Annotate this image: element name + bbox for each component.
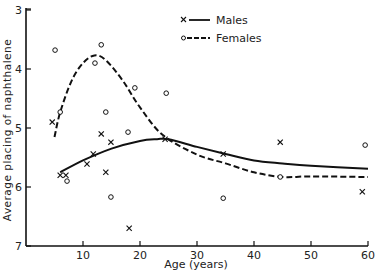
female-data-point — [164, 91, 169, 96]
legend-females: Females — [182, 32, 262, 45]
female-data-point — [126, 130, 131, 135]
females-points — [53, 43, 368, 201]
female-data-point — [109, 195, 114, 200]
male-data-point — [63, 173, 68, 178]
male-data-point — [99, 131, 104, 136]
x-tick-label: 20 — [133, 249, 147, 262]
female-data-point — [363, 143, 368, 148]
x-tick-label: 10 — [76, 249, 90, 262]
female-data-point — [133, 86, 138, 91]
female-data-point — [58, 110, 63, 115]
male-data-point — [127, 226, 132, 231]
male-data-point — [103, 170, 108, 175]
male-data-point — [84, 161, 89, 166]
legend: Males Females — [181, 14, 262, 45]
female-data-point — [93, 61, 98, 66]
legend-males-label: Males — [216, 14, 248, 27]
y-axis-label: Average placing of naphthalene — [1, 39, 13, 221]
y-tick-label: 6 — [15, 181, 22, 194]
female-data-point — [53, 48, 58, 53]
axes — [26, 8, 368, 246]
y-ticks: 34567 — [15, 4, 31, 253]
male-data-point — [360, 189, 365, 194]
males-points — [50, 120, 365, 231]
female-data-point — [99, 43, 104, 48]
x-tick-label: 40 — [247, 249, 261, 262]
female-data-point — [65, 179, 70, 184]
males-trend-curve — [60, 139, 368, 173]
female-data-point — [104, 110, 109, 115]
x-tick-label: 50 — [304, 249, 318, 262]
female-data-point — [221, 196, 226, 201]
female-data-point — [278, 175, 283, 180]
y-tick-label: 3 — [15, 4, 22, 17]
females-trend-curve — [55, 55, 369, 177]
x-tick-label: 60 — [361, 249, 375, 262]
legend-males: Males — [181, 14, 248, 27]
x-axis-label: Age (years) — [164, 258, 228, 271]
circle-marker-icon — [182, 36, 186, 40]
y-tick-label: 4 — [15, 63, 22, 76]
y-tick-label: 7 — [15, 240, 22, 253]
y-tick-label: 5 — [15, 122, 22, 135]
male-data-point — [108, 140, 113, 145]
x-marker-icon — [181, 17, 186, 22]
male-data-point — [278, 140, 283, 145]
chart: 102030405060 34567 Age (years) Average p… — [0, 0, 378, 277]
legend-females-label: Females — [216, 32, 262, 45]
male-data-point — [58, 173, 63, 178]
male-data-point — [50, 120, 55, 125]
